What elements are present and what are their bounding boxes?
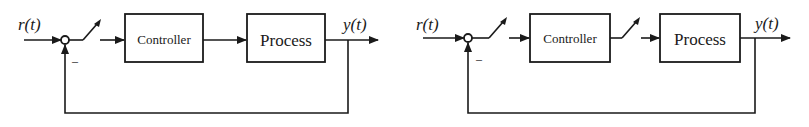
sampler-switch-icon [83, 19, 101, 40]
feedback-minus-sign: – [475, 52, 483, 66]
feedback-minus-sign: – [71, 54, 79, 68]
controller-label: Controller [543, 31, 597, 46]
summing-junction-icon [464, 34, 472, 42]
feedback-arrowhead-icon [61, 44, 69, 54]
control-sampler-switch-icon [622, 17, 640, 38]
input-signal-label: r(t) [18, 15, 41, 34]
input-signal-label: r(t) [416, 15, 439, 34]
controller-label: Controller [137, 32, 191, 47]
output-signal-label: y(t) [753, 14, 779, 33]
feedback-arrowhead-icon [464, 42, 472, 52]
output-signal-label: y(t) [341, 15, 367, 34]
process-label: Process [260, 31, 312, 50]
process-label: Process [674, 30, 726, 49]
error-sampler-switch-icon [489, 17, 507, 38]
summing-junction-icon [61, 36, 69, 44]
diagram-canvas: r(t) – Controller Process y(t) r(t) [0, 0, 809, 127]
right-block-diagram: r(t) – Controller Process y(t) [416, 14, 790, 113]
left-block-diagram: r(t) – Controller Process y(t) [18, 14, 378, 113]
